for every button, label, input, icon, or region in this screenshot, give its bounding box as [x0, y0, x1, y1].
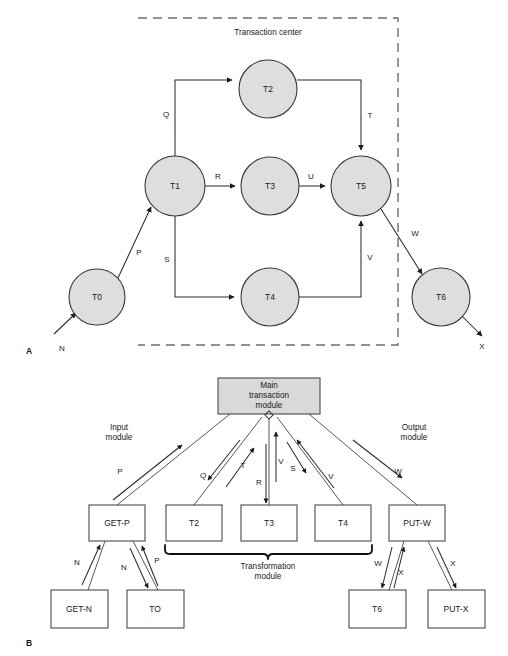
box-T3[interactable]: T3 — [241, 505, 297, 541]
main-module-line-3: module — [256, 401, 283, 410]
edge-label-V: V — [367, 253, 373, 262]
node-T0[interactable]: T0 — [69, 269, 125, 325]
box-PUT-W[interactable]: PUT-W — [389, 505, 445, 541]
box-T2-label: T2 — [189, 518, 199, 528]
edge-label-U: U — [308, 172, 314, 181]
main-transaction-module[interactable]: Main transaction module — [218, 378, 320, 414]
node-T6-label: T6 — [436, 292, 446, 302]
flow-label-N2: N — [121, 563, 127, 572]
box-T4[interactable]: T4 — [315, 505, 371, 541]
edge-label-W: W — [411, 229, 419, 238]
node-T2-label: T2 — [263, 84, 273, 94]
diagram-canvas: Transaction center T — [0, 0, 508, 656]
flow-label-R: R — [256, 478, 262, 487]
edge-V-line — [299, 221, 361, 297]
box-T2[interactable]: T2 — [166, 505, 222, 541]
edge-S-line — [175, 216, 234, 297]
node-T1[interactable]: T1 — [145, 156, 205, 216]
flow-P-arrow — [113, 445, 182, 500]
edge-label-R: R — [215, 172, 221, 181]
flow-W2-arrow — [382, 547, 392, 588]
input-module-label-line2: module — [106, 433, 133, 442]
flow-label-W2: W — [374, 559, 382, 568]
flow-label-P2: P — [154, 556, 159, 565]
transaction-center-label: Transaction center — [234, 28, 302, 37]
box-TO[interactable]: TO — [127, 590, 184, 628]
transformation-module-label-line2: module — [255, 572, 282, 581]
node-T4-label: T4 — [265, 292, 275, 302]
figure-root: Transaction center T — [0, 0, 508, 656]
panel-a: Transaction center T — [26, 18, 485, 356]
input-module-label-line1: Input — [110, 423, 129, 432]
node-T5[interactable]: T5 — [331, 156, 391, 216]
box-TO-label: TO — [149, 604, 161, 614]
edge-Q-line — [175, 80, 232, 156]
box-GET-P[interactable]: GET-P — [89, 505, 145, 541]
edge-X-line — [461, 315, 482, 336]
conn-main-t4 — [277, 417, 343, 505]
edge-label-X: X — [479, 342, 485, 351]
box-GET-N[interactable]: GET-N — [51, 590, 108, 628]
node-T3[interactable]: T3 — [241, 157, 299, 215]
edge-label-Q: Q — [163, 110, 169, 119]
output-module-label-line2: module — [401, 433, 428, 442]
conn-putw-putx — [428, 541, 452, 590]
box-GET-N-label: GET-N — [66, 604, 92, 614]
edge-label-T: T — [368, 111, 373, 120]
node-T6[interactable]: T6 — [412, 268, 470, 326]
output-module-label-line1: Output — [402, 423, 427, 432]
node-T1-label: T1 — [170, 181, 180, 191]
box-T4-label: T4 — [338, 518, 348, 528]
edge-N-line — [54, 313, 76, 334]
node-T0-label: T0 — [92, 292, 102, 302]
main-module-line-2: transaction — [249, 391, 289, 400]
flow-label-Q: Q — [200, 471, 206, 480]
flow-label-P: P — [117, 467, 122, 476]
node-T3-label: T3 — [265, 181, 275, 191]
edge-label-S: S — [164, 255, 169, 264]
panel-label-a: A — [26, 346, 32, 356]
flow-label-N1: N — [74, 558, 80, 567]
flow-label-V2: V — [328, 472, 334, 481]
transformation-brace — [165, 545, 372, 559]
transformation-module-label-line1: Transformation — [241, 562, 296, 571]
flow-label-V1: V — [278, 457, 284, 466]
box-PUT-X[interactable]: PUT-X — [428, 590, 485, 628]
box-T3-label: T3 — [264, 518, 274, 528]
panel-label-b: B — [26, 638, 32, 648]
edge-label-N: N — [59, 344, 65, 353]
box-T6-b[interactable]: T6 — [349, 590, 406, 628]
main-module-line-1: Main — [260, 381, 278, 390]
flow-label-X1: X — [398, 568, 404, 577]
edge-W-line — [381, 209, 422, 274]
node-T2[interactable]: T2 — [239, 60, 297, 118]
box-T6-b-label: T6 — [372, 604, 382, 614]
flow-label-W: W — [394, 467, 402, 476]
edge-P-line — [118, 207, 151, 278]
conn-main-getp — [117, 414, 230, 505]
edge-label-P: P — [136, 248, 141, 257]
conn-main-t2 — [194, 417, 262, 505]
edge-T-line — [297, 80, 361, 150]
node-T4[interactable]: T4 — [241, 268, 299, 326]
flow-label-T: T — [241, 461, 246, 470]
flow-N1-arrow — [82, 545, 100, 585]
box-GET-P-label: GET-P — [104, 518, 130, 528]
box-PUT-W-label: PUT-W — [403, 518, 430, 528]
node-T5-label: T5 — [356, 181, 366, 191]
flow-label-X2: X — [450, 559, 456, 568]
flow-label-S: S — [290, 464, 295, 473]
panel-b: Main transaction module — [26, 378, 485, 648]
box-PUT-X-label: PUT-X — [443, 604, 468, 614]
